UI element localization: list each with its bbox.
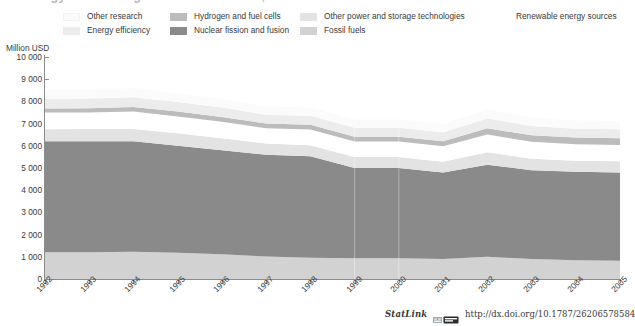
y-tick: 9 000 bbox=[0, 74, 42, 84]
y-tick: 1 000 bbox=[0, 252, 42, 262]
legend-swatch bbox=[63, 27, 80, 35]
y-tick: 2 000 bbox=[0, 230, 42, 240]
statlink-label: StatLink bbox=[385, 309, 427, 319]
legend-label: Fossil fuels bbox=[324, 26, 366, 35]
legend-swatch bbox=[300, 13, 317, 21]
legend-label: Other power and storage technologies bbox=[324, 12, 465, 21]
figure-title-strip: Energy RD&D budgets in IEA countries, 19… bbox=[0, 0, 635, 6]
y-tick-label: 5 000 bbox=[21, 163, 42, 173]
legend-label: Hydrogen and fuel cells bbox=[194, 12, 281, 21]
statlink-icon bbox=[433, 310, 459, 318]
y-tick-label: 6 000 bbox=[21, 141, 42, 151]
statlink-url[interactable]: http://dx.doi.org/10.1787/262065785848 bbox=[465, 309, 635, 319]
legend-label: Energy efficiency bbox=[87, 26, 150, 35]
y-tick-label: 3 000 bbox=[21, 207, 42, 217]
legend-swatch bbox=[63, 13, 80, 21]
y-tick: 4 000 bbox=[0, 185, 42, 195]
y-tick-label: 8 000 bbox=[21, 96, 42, 106]
y-tick-label: 2 000 bbox=[21, 230, 42, 240]
y-tick: 5 000 bbox=[0, 163, 42, 173]
y-tick-label: 4 000 bbox=[21, 185, 42, 195]
y-tick-label: 10 000 bbox=[17, 52, 42, 62]
y-tick-label: 1 000 bbox=[21, 252, 42, 262]
y-tick: 3 000 bbox=[0, 207, 42, 217]
y-tick: 10 000 bbox=[0, 52, 42, 62]
legend-label: Nuclear fission and fusion bbox=[194, 26, 289, 35]
legend-label: Other research bbox=[87, 12, 142, 21]
plot-area bbox=[45, 57, 620, 279]
y-tick-label: 9 000 bbox=[21, 74, 42, 84]
y-tick: 6 000 bbox=[0, 141, 42, 151]
y-tick: 8 000 bbox=[0, 96, 42, 106]
y-tick: 7 000 bbox=[0, 119, 42, 129]
chart-legend: Other researchEnergy efficiencyHydrogen … bbox=[0, 9, 635, 37]
legend-swatch bbox=[170, 13, 187, 21]
legend-swatch bbox=[170, 27, 187, 35]
legend-label: Renewable energy sources bbox=[516, 12, 617, 21]
stacked-area-chart bbox=[45, 57, 620, 279]
legend-swatch bbox=[300, 27, 317, 35]
page-title: Energy RD&D budgets in IEA countries, 19… bbox=[22, 0, 330, 3]
y-tick: 0 bbox=[0, 274, 42, 284]
y-tick-label: 7 000 bbox=[21, 119, 42, 129]
chart-page: Energy RD&D budgets in IEA countries, 19… bbox=[0, 0, 635, 326]
